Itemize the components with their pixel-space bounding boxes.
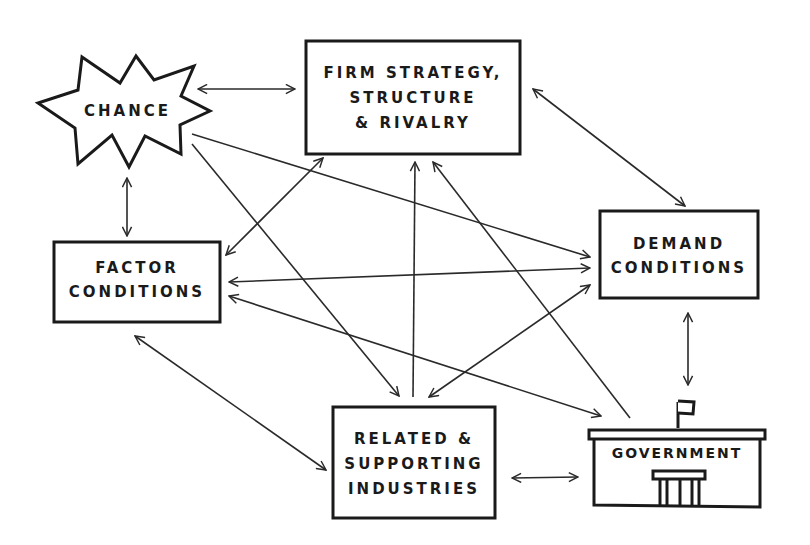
firm-strategy-label: FIRM STRATEGY, STRUCTURE & RIVALRY <box>306 61 520 136</box>
edge-firm-factor <box>226 158 323 255</box>
government-label: GOVERNMENT <box>594 441 760 465</box>
related-label-line-3: INDUSTRIES <box>333 477 495 502</box>
factor-label-line-1: FACTOR <box>54 256 220 280</box>
demand-conditions-label: DEMAND CONDITIONS <box>600 232 758 280</box>
related-supporting-label: RELATED & SUPPORTING INDUSTRIES <box>333 427 495 502</box>
edge-factor-government <box>229 296 601 416</box>
firm-label-line-2: STRUCTURE <box>306 86 520 111</box>
demand-label-line-1: DEMAND <box>600 232 758 256</box>
related-label-line-2: SUPPORTING <box>333 452 495 477</box>
edge-chance-related <box>192 144 399 396</box>
chance-label: CHANCE <box>84 99 164 123</box>
factor-label-line-2: CONDITIONS <box>54 280 220 304</box>
edge-related-firm <box>413 162 415 397</box>
factor-conditions-label: FACTOR CONDITIONS <box>54 256 220 304</box>
edge-factor-related <box>135 336 326 470</box>
demand-label-line-2: CONDITIONS <box>600 256 758 280</box>
edge-related-government <box>512 477 578 478</box>
edge-firm-demand <box>533 89 685 206</box>
edge-factor-demand <box>229 268 590 282</box>
related-label-line-1: RELATED & <box>333 427 495 452</box>
firm-label-line-3: & RIVALRY <box>306 111 520 136</box>
firm-label-line-1: FIRM STRATEGY, <box>306 61 520 86</box>
government-label-line: GOVERNMENT <box>594 441 760 465</box>
chance-label-line: CHANCE <box>84 99 164 123</box>
edge-related-demand <box>429 285 590 397</box>
